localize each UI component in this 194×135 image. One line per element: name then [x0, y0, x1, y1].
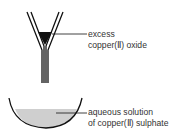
- solution-label-1: aqueous solution: [88, 107, 153, 117]
- funnel: [27, 12, 63, 83]
- oxide-label-1: excess: [88, 29, 115, 39]
- copper-oxide-solid: [38, 32, 52, 45]
- solution-liquid: [15, 109, 77, 128]
- oxide-label-2: copper(Ⅱ) oxide: [88, 40, 147, 50]
- solution-label-2: of copper(Ⅱ) sulphate: [88, 118, 168, 128]
